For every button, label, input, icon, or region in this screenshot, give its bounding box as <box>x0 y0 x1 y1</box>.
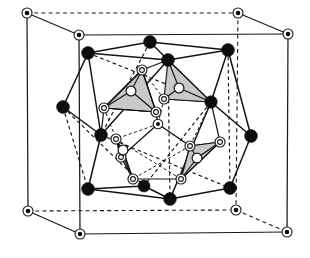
cluster-atom-o1 <box>126 86 136 96</box>
cage-edge-p7-p9 <box>88 135 101 189</box>
cage-atom-p2 <box>82 47 95 60</box>
cage-edge-p5-p7 <box>63 107 101 135</box>
cell-edge-left-vertical-back <box>79 35 80 234</box>
cluster-atom-o2 <box>174 83 184 93</box>
corner-atom-front-top-right <box>283 29 293 39</box>
cage-atom-p9 <box>82 183 95 196</box>
cluster-atom-r3 <box>151 107 161 117</box>
cluster-atom-o3 <box>192 153 202 163</box>
cell-edge-bottom-right-diagonal <box>236 210 287 232</box>
corner-atom-back-top-right <box>233 8 243 18</box>
cage-edge-p2-p4 <box>88 53 168 60</box>
cage-atom-p7 <box>95 129 108 142</box>
cluster-center-atom <box>153 119 163 129</box>
cage-edge-p9-p12 <box>88 189 170 199</box>
cage-edge-p3-p11 <box>228 50 230 188</box>
cell-edge-top-right-diagonal <box>238 13 288 34</box>
cage-atom-p8 <box>245 130 258 143</box>
corner-atom-front-bottom-right <box>282 227 292 237</box>
cage-atom-p11 <box>224 182 237 195</box>
cluster-atom-r6 <box>111 134 121 144</box>
cage-edge-p9-p10 <box>88 186 144 189</box>
cluster-edge-r12-r6 <box>116 124 158 139</box>
cell-edge-top-back <box>79 34 288 35</box>
corner-atom-back-top-left <box>74 30 84 40</box>
cluster-atom-o4 <box>118 145 128 155</box>
cage-edge-p2-p5 <box>63 53 88 107</box>
cluster-atom-r10 <box>215 137 225 147</box>
cell-edge-right-vertical-front <box>287 34 288 232</box>
corner-atom-front-top-left <box>22 8 32 18</box>
cluster-atom-r2 <box>99 103 109 113</box>
cage-edge-p11-p8 <box>230 136 251 188</box>
cage-edge-p12-p11 <box>170 188 230 199</box>
cage-dashed-edges <box>63 42 230 199</box>
cluster-atom-r11 <box>176 174 186 184</box>
cell-edge-back-right-vertical <box>236 13 238 210</box>
cage-edge-p3-p8 <box>228 50 251 136</box>
cell-edge-bottom-left-diagonal <box>28 211 80 234</box>
cluster-atom-r7 <box>128 174 138 184</box>
corner-atom-back-bottom-right <box>231 205 241 215</box>
crystal-structure-canvas <box>0 0 310 258</box>
cage-edge-p5-p9 <box>63 107 88 189</box>
cell-edge-bottom-back <box>80 232 287 234</box>
cage-edge-p1-p3 <box>150 42 228 50</box>
cluster-atom-r9 <box>185 141 195 151</box>
cage-atom-p1 <box>144 36 157 49</box>
corner-atom-back-bottom-left <box>75 229 85 239</box>
cage-atom-p10 <box>138 180 150 192</box>
cell-edge-top-left-diagonal <box>27 13 79 35</box>
cell-edge-bottom-front <box>28 210 236 211</box>
cell-edge-left-vertical-front <box>27 13 28 211</box>
cage-atom-p3 <box>222 44 235 57</box>
cage-edge-p4-p3 <box>168 50 228 60</box>
cage-atom-p5 <box>57 101 70 114</box>
cage-atom-p6 <box>205 96 217 108</box>
cage-atom-p4 <box>162 54 175 67</box>
cluster-atom-r1 <box>137 65 147 75</box>
corner-atom-front-bottom-left <box>23 206 33 216</box>
cage-edge-p2-p1 <box>88 42 150 53</box>
cage-atom-p12 <box>164 193 177 206</box>
cluster-atom-r4 <box>159 94 169 104</box>
crystal-structure-figure <box>0 0 310 258</box>
cage-edge-p6-p3 <box>211 50 228 102</box>
cage-edge-p2-p7 <box>88 53 101 135</box>
